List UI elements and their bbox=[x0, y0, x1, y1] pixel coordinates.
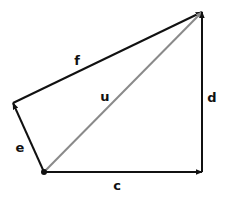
vector-label-u: u bbox=[100, 90, 109, 103]
vector-label-d: d bbox=[207, 91, 216, 104]
vector-diagram-svg bbox=[0, 0, 225, 203]
vector-label-f: f bbox=[74, 54, 80, 67]
vector-u bbox=[44, 12, 202, 172]
vector-label-c: c bbox=[113, 179, 121, 192]
vector-label-e: e bbox=[16, 141, 25, 154]
vector-e bbox=[13, 103, 44, 172]
origin-point bbox=[41, 169, 47, 175]
vector-diagram: e f u c d bbox=[0, 0, 225, 203]
